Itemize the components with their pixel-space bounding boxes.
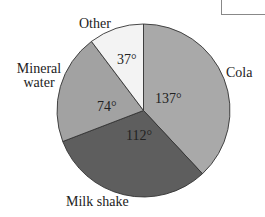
pie-slices (57, 24, 230, 197)
degree-milk-shake: 112° (126, 129, 152, 143)
label-mineral-line2: water (14, 76, 64, 90)
label-mineral-water: Mineral water (14, 62, 64, 90)
label-milk-shake: Milk shake (66, 195, 129, 209)
degree-cola: 137° (155, 92, 182, 106)
degree-mineral-water: 74° (97, 100, 117, 114)
label-mineral-line1: Mineral (14, 62, 64, 76)
degree-other: 37° (117, 53, 137, 67)
label-cola: Cola (226, 66, 252, 80)
label-other: Other (79, 17, 111, 31)
pie-chart (0, 0, 265, 217)
